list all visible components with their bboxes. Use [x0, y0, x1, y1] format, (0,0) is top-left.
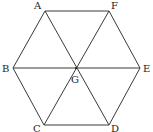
- edge-BA: [13, 11, 45, 68]
- hexagon-diagram: A F E D C B G: [0, 0, 153, 132]
- label-F: F: [111, 0, 118, 11]
- edge-CB: [13, 68, 44, 125]
- edge-FE: [109, 11, 140, 68]
- label-E: E: [143, 63, 150, 74]
- label-A: A: [33, 0, 42, 11]
- center-point-G: [75, 67, 77, 69]
- edge-ED: [109, 68, 140, 125]
- label-D: D: [111, 123, 119, 132]
- label-C: C: [33, 123, 41, 132]
- label-G: G: [71, 74, 79, 85]
- label-B: B: [2, 63, 9, 74]
